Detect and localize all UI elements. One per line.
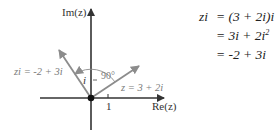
vector-z-label: z = 3 + 2i — [121, 83, 163, 94]
angle-label: 90° — [101, 71, 115, 81]
origin-dot — [88, 95, 95, 102]
equation-line2: = 3i + 2i2 — [216, 29, 269, 43]
vector-zi-label: zi = -2 + 3i — [14, 67, 63, 78]
tick-label-1: 1 — [106, 101, 112, 112]
equation-line2-exponent: 2 — [265, 28, 269, 37]
equation-line1-lhs: zi — [199, 10, 208, 24]
equation-line2-text: = 3i + 2i — [216, 28, 265, 43]
imaginary-axis-label: Im(z) — [62, 7, 86, 18]
equation-line1-rhs: = (3 + 2i)i — [216, 10, 274, 24]
real-axis-label: Re(z) — [152, 101, 176, 112]
equation-line3: = -2 + 3i — [216, 48, 266, 62]
rotation-label: i — [83, 75, 86, 86]
